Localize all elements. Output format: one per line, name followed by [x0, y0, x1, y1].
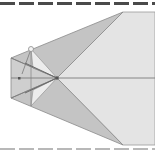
right-light-face	[57, 12, 155, 145]
dot-marker	[18, 77, 21, 80]
center-point-marker	[55, 76, 59, 80]
vertex-circle-marker	[29, 47, 34, 52]
fold-diagram	[0, 0, 155, 152]
